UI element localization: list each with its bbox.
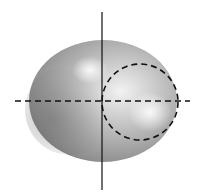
diagram-canvas <box>0 0 199 196</box>
torus-diagram <box>0 0 199 196</box>
right-highlight <box>128 92 172 132</box>
